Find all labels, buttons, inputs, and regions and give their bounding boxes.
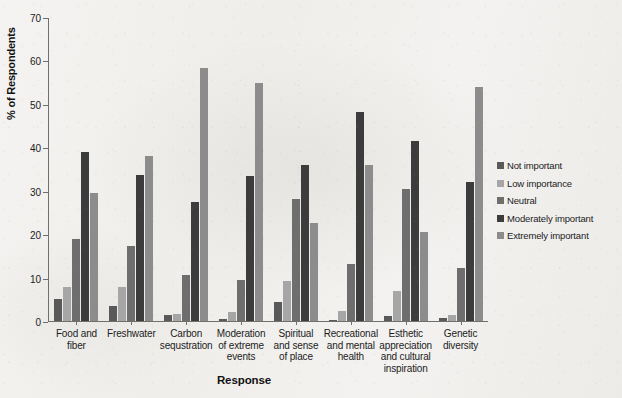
legend-label: Not important [507,160,562,171]
bar [274,302,282,321]
bar [81,152,89,321]
x-axis-tick [296,321,297,325]
bar [338,311,346,321]
bar [200,68,208,321]
bar [439,318,447,321]
bar [90,193,98,321]
bar [182,275,190,321]
y-axis-tick-label: 30 [30,186,41,197]
y-axis-tick-label: 40 [30,143,41,154]
bar-group: Estheticappreciationand culturalinspirat… [378,18,433,321]
bar-group: Moderationof extremeevents [214,18,269,321]
x-axis-tick [131,321,132,325]
x-axis-title: Response [0,374,488,386]
legend-item[interactable]: Moderately important [497,210,619,228]
bar [127,246,135,321]
bar [219,319,227,321]
bar [255,83,263,321]
bar [402,189,410,321]
bar-groups: Food andfiberFreshwaterCarbonsequstratio… [49,18,488,321]
legend-swatch-icon [497,232,504,239]
legend-swatch-icon [497,180,504,187]
bar [237,280,245,321]
legend-item[interactable]: Low importance [497,175,619,193]
y-axis-tick [43,322,48,323]
y-axis-tick-label: 60 [30,56,41,67]
bar [420,232,428,321]
bar [72,239,80,322]
bar [136,175,144,321]
legend-item[interactable]: Not important [497,157,619,175]
bar [457,268,465,321]
plot-area: 010203040506070 Food andfiberFreshwaterC… [48,18,488,322]
x-axis-tick [351,321,352,325]
legend-label: Low importance [507,178,572,189]
y-axis-tick-label: 0 [36,317,41,328]
y-axis-tick [43,148,48,149]
y-axis-tick-label: 10 [30,273,41,284]
bar-group: Recreationaland mentalhealth [323,18,378,321]
chart-figure: % of Respondents 010203040506070 Food an… [0,0,622,398]
y-axis-tick [43,279,48,280]
x-axis-category-line: inspiration [373,363,439,375]
x-axis-category-line: Genetic [428,328,494,340]
bar [173,314,181,321]
x-axis-tick [461,321,462,325]
bar [393,291,401,321]
bar [164,315,172,321]
bar [411,141,419,321]
bar [109,306,117,321]
bar [466,182,474,321]
x-axis-tick [186,321,187,325]
bar [118,287,126,321]
bar [145,156,153,321]
y-axis-tick-label: 50 [30,99,41,110]
y-axis-tick-label: 70 [30,13,41,24]
legend-swatch-icon [497,162,504,169]
bar [347,264,355,321]
legend-swatch-icon [497,215,504,222]
y-axis-tick [43,192,48,193]
bar-group: Food andfiber [49,18,104,321]
bar [54,299,62,321]
chart-legend: Not importantLow importanceNeutralModera… [497,157,619,245]
bar-group: Geneticdiversity [433,18,488,321]
x-axis-category-line: and cultural [373,351,439,363]
bar [310,223,318,321]
x-axis-category-line: diversity [428,340,494,352]
x-axis-tick [241,321,242,325]
bar-group: Freshwater [104,18,159,321]
y-axis-tick [43,18,48,19]
bar [63,287,71,321]
x-axis-category-line: fiber [43,340,109,352]
y-axis-tick [43,105,48,106]
y-axis-tick [43,61,48,62]
bar [283,281,291,321]
legend-item[interactable]: Extremely important [497,227,619,245]
bar [365,165,373,321]
bar [329,320,337,321]
bar-group: Carbonsequstration [159,18,214,321]
bar [292,199,300,321]
y-axis-tick-label: 20 [30,230,41,241]
legend-label: Extremely important [507,230,589,241]
bar [356,112,364,321]
bar [448,315,456,321]
x-axis-tick [406,321,407,325]
x-axis-tick [76,321,77,325]
bar [228,312,236,321]
x-axis-category-label: Geneticdiversity [428,328,494,351]
legend-swatch-icon [497,197,504,204]
bar [191,202,199,321]
bar [384,316,392,321]
bar [301,165,309,321]
y-axis-title: % of Respondents [5,27,17,120]
legend-label: Neutral [507,195,537,206]
legend-item[interactable]: Neutral [497,192,619,210]
y-axis-tick [43,235,48,236]
x-axis-line [48,321,488,322]
bar [246,176,254,321]
legend-label: Moderately important [507,213,593,224]
bar [475,87,483,322]
bar-group: Spiritualand senseof place [269,18,324,321]
